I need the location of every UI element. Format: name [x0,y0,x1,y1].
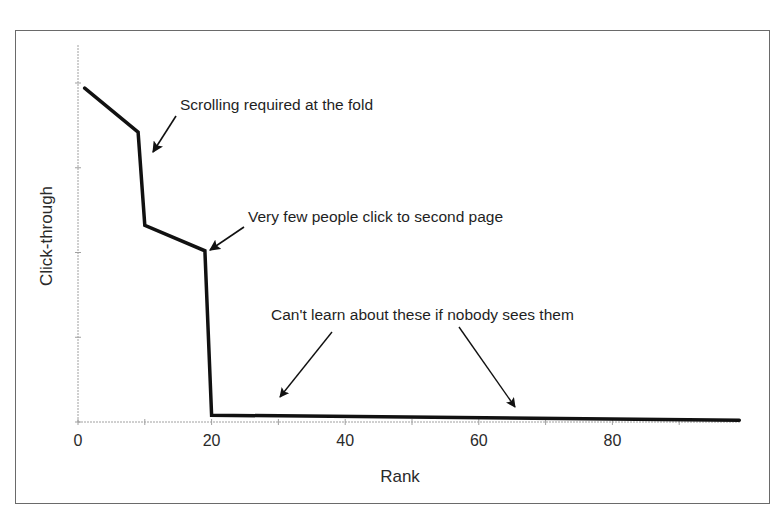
annotation-unseen: Can't learn about these if nobody sees t… [271,306,574,407]
annotation-fold: Scrolling required at the fold [153,96,373,152]
x-axis: 020406080 [74,419,740,449]
x-tick-label: 20 [203,432,221,449]
y-axis-title: Click-through [37,186,56,286]
annotation-second-page-text: Very few people click to second page [248,208,503,225]
annotation-second-page: Very few people click to second page [210,208,503,250]
x-axis-tick-labels: 020406080 [74,432,622,449]
x-tick-label: 40 [336,432,354,449]
arrow-icon [210,227,244,250]
x-tick-label: 80 [604,432,622,449]
x-axis-title: Rank [380,467,420,486]
annotation-fold-text: Scrolling required at the fold [180,96,373,113]
annotation-unseen-text: Can't learn about these if nobody sees t… [271,306,574,323]
x-tick-label: 60 [470,432,488,449]
arrow-icon [459,327,515,407]
click-through-line [85,88,740,420]
x-tick-label: 0 [74,432,83,449]
click-through-chart: 020406080 Rank Click-through Scrolling r… [0,0,772,522]
arrow-icon [153,116,176,152]
y-axis [75,45,81,422]
arrow-icon [280,332,332,397]
